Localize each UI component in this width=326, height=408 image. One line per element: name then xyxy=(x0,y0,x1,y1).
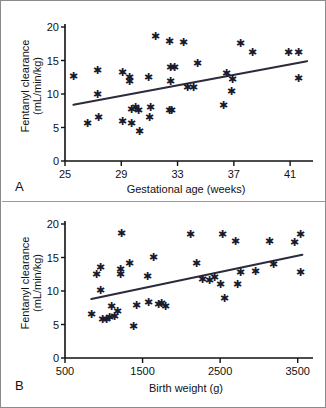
panel-a-y-tick-5: 5 xyxy=(35,122,59,134)
panel-a-x-tick-33: 33 xyxy=(171,168,183,180)
panel-b-y-tick-0: 0 xyxy=(35,352,59,364)
panel-b-x-tick-500: 500 xyxy=(56,365,74,377)
data-point-marker: ✱ xyxy=(296,228,305,240)
panel-a-y-tick-20: 20 xyxy=(35,21,59,33)
data-point-marker: ✱ xyxy=(236,266,245,278)
data-point-marker: ✱ xyxy=(165,35,174,47)
data-point-marker: ✱ xyxy=(144,296,153,308)
data-point-marker: ✱ xyxy=(83,117,92,129)
data-point-marker: ✱ xyxy=(93,88,102,100)
data-point-marker: ✱ xyxy=(186,228,195,240)
panel-b-y-axis-title-line1: Fentanyl clearance xyxy=(19,216,31,350)
data-point-marker: ✱ xyxy=(192,257,201,269)
panel-b: ✱✱✱✱✱✱✱✱✱✱✱✱✱✱✱✱✱✱✱✱✱✱✱✱✱✱✱✱✱✱✱✱✱✱✱✱✱✱✱ … xyxy=(1,202,326,408)
data-point-marker: ✱ xyxy=(113,305,122,317)
panel-a-data-points: ✱✱✱✱✱✱✱✱✱✱✱✱✱✱✱✱✱✱✱✱✱✱✱✱✱✱✱✱✱✱✱✱✱✱✱✱✱ xyxy=(69,30,303,137)
panel-b-letter: B xyxy=(15,378,24,393)
panel-b-x-tick-3500: 3500 xyxy=(285,365,309,377)
data-point-marker: ✱ xyxy=(94,111,103,123)
data-point-marker: ✱ xyxy=(132,299,141,311)
data-point-marker: ✱ xyxy=(248,46,257,58)
panel-a-y-tick-10: 10 xyxy=(35,88,59,100)
data-point-marker: ✱ xyxy=(135,125,144,137)
panel-b-y-tick-10: 10 xyxy=(35,285,59,297)
data-point-marker: ✱ xyxy=(146,101,155,113)
panel-a-letter: A xyxy=(15,179,24,194)
data-point-marker: ✱ xyxy=(149,251,158,263)
data-point-marker: ✱ xyxy=(219,99,228,111)
data-point-marker: ✱ xyxy=(69,70,78,82)
figure-container: ✱✱✱✱✱✱✱✱✱✱✱✱✱✱✱✱✱✱✱✱✱✱✱✱✱✱✱✱✱✱✱✱✱✱✱✱✱ Fe… xyxy=(0,0,326,408)
panel-a-x-tick-41: 41 xyxy=(284,168,296,180)
data-point-marker: ✱ xyxy=(134,104,143,116)
data-point-marker: ✱ xyxy=(193,57,202,69)
data-point-marker: ✱ xyxy=(170,61,179,73)
panel-a-x-axis-title: Gestational age (weeks) xyxy=(65,183,307,195)
data-point-marker: ✱ xyxy=(284,46,293,58)
data-point-marker: ✱ xyxy=(233,278,242,290)
data-point-marker: ✱ xyxy=(96,284,105,296)
data-point-marker: ✱ xyxy=(166,75,175,87)
panel-a-y-tick-15: 15 xyxy=(35,55,59,67)
panel-b-data-points: ✱✱✱✱✱✱✱✱✱✱✱✱✱✱✱✱✱✱✱✱✱✱✱✱✱✱✱✱✱✱✱✱✱✱✱✱✱✱✱ xyxy=(87,227,305,331)
data-point-marker: ✱ xyxy=(231,235,240,247)
data-point-marker: ✱ xyxy=(93,64,102,76)
panel-a: ✱✱✱✱✱✱✱✱✱✱✱✱✱✱✱✱✱✱✱✱✱✱✱✱✱✱✱✱✱✱✱✱✱✱✱✱✱ Fe… xyxy=(1,1,326,201)
panel-b-x-tick-2500: 2500 xyxy=(208,365,232,377)
panel-b-plot: ✱✱✱✱✱✱✱✱✱✱✱✱✱✱✱✱✱✱✱✱✱✱✱✱✱✱✱✱✱✱✱✱✱✱✱✱✱✱✱ xyxy=(1,202,326,408)
data-point-marker: ✱ xyxy=(251,265,260,277)
data-point-marker: ✱ xyxy=(161,300,170,312)
data-point-marker: ✱ xyxy=(294,72,303,84)
data-point-marker: ✱ xyxy=(143,270,152,282)
panel-a-x-tick-29: 29 xyxy=(115,168,127,180)
panel-b-x-tick-1500: 1500 xyxy=(130,365,154,377)
panel-b-y-tick-5: 5 xyxy=(35,319,59,331)
panel-a-y-axis-title-line1: Fentanyl clearance xyxy=(19,19,31,153)
data-point-marker: ✱ xyxy=(228,73,237,85)
panel-b-x-axis-title: Birth weight (g) xyxy=(65,382,307,394)
data-point-marker: ✱ xyxy=(269,258,278,270)
data-point-marker: ✱ xyxy=(227,85,236,97)
data-point-marker: ✱ xyxy=(265,235,274,247)
panel-b-y-tick-20: 20 xyxy=(35,218,59,230)
data-point-marker: ✱ xyxy=(125,257,134,269)
data-point-marker: ✱ xyxy=(216,278,225,290)
data-point-marker: ✱ xyxy=(117,227,126,239)
data-point-marker: ✱ xyxy=(218,228,227,240)
data-point-marker: ✱ xyxy=(96,261,105,273)
data-point-marker: ✱ xyxy=(144,71,153,83)
panel-a-x-tick-25: 25 xyxy=(59,168,71,180)
data-point-marker: ✱ xyxy=(189,81,198,93)
panel-a-x-tick-37: 37 xyxy=(228,168,240,180)
data-point-marker: ✱ xyxy=(125,75,134,87)
data-point-marker: ✱ xyxy=(167,104,176,116)
data-point-marker: ✱ xyxy=(236,37,245,49)
data-point-marker: ✱ xyxy=(220,292,229,304)
data-point-marker: ✱ xyxy=(151,30,160,42)
data-point-marker: ✱ xyxy=(179,36,188,48)
data-point-marker: ✱ xyxy=(87,308,96,320)
panel-b-y-tick-15: 15 xyxy=(35,252,59,264)
data-point-marker: ✱ xyxy=(294,46,303,58)
data-point-marker: ✱ xyxy=(129,320,138,332)
panel-a-y-tick-0: 0 xyxy=(35,155,59,167)
data-point-marker: ✱ xyxy=(296,266,305,278)
